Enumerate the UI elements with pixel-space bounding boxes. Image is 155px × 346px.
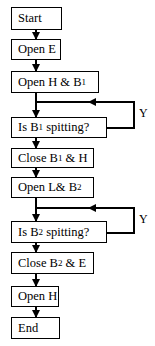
open-h-label: Open H (18, 290, 57, 303)
open-e-label: Open E (18, 43, 56, 56)
is-b2-label-b: spitting? (43, 226, 89, 239)
loop-1-yes-label: Y (139, 106, 148, 121)
close-b2-e-box: Close B2 & E (11, 252, 94, 274)
end-box: End (11, 317, 60, 339)
open-h-b1-subscript: 1 (82, 78, 87, 87)
end-label: End (18, 322, 38, 335)
open-l-b2-box: Open L& B2 (11, 177, 94, 198)
is-b1-label-b: spitting? (43, 121, 89, 134)
start-label: Start (18, 12, 42, 25)
is-b2-spitting-box: Is B2 spitting? (11, 221, 107, 243)
close-b1-label-a: Close B (18, 152, 58, 165)
open-h-b1-label: Open H & B (18, 76, 82, 89)
close-b1-h-box: Close B1 & H (11, 148, 94, 168)
open-l-b2-label: Open L& B (18, 181, 77, 194)
loop-2-yes-label: Y (139, 212, 148, 227)
open-l-b2-subscript: 2 (77, 183, 82, 192)
open-h-box: Open H (11, 286, 59, 307)
close-b2-label-a: Close B (18, 257, 58, 270)
start-box: Start (11, 7, 62, 30)
close-b2-label-b: & E (62, 257, 86, 270)
close-b1-label-b: & H (62, 152, 87, 165)
open-h-b1-box: Open H & B1 (11, 71, 99, 93)
is-b1-label-a: Is B (18, 121, 39, 134)
open-e-box: Open E (11, 39, 61, 60)
is-b2-label-a: Is B (18, 226, 39, 239)
is-b1-spitting-box: Is B1 spitting? (11, 117, 107, 138)
